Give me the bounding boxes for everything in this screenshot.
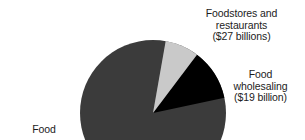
pie-label-foodstores-line1: Foodstores and bbox=[180, 8, 303, 20]
pie-label-wholesaling-value: ($19 billion) bbox=[218, 92, 303, 104]
screenshot-root: Foodstores and restaurants ($27 billions… bbox=[0, 0, 305, 140]
pie-label-foodstores-value: ($27 billions) bbox=[180, 31, 303, 43]
pie-label-food-wholesaling: Food wholesaling ($19 billion) bbox=[218, 69, 303, 104]
pie-label-food-line1: Food bbox=[9, 124, 79, 136]
pie-label-wholesaling-line1: Food bbox=[218, 69, 303, 81]
pie-label-foodstores-restaurants: Foodstores and restaurants ($27 billions… bbox=[180, 8, 303, 43]
pie-chart-figure: Foodstores and restaurants ($27 billions… bbox=[0, 0, 305, 140]
pie-label-food: Food bbox=[9, 124, 79, 136]
